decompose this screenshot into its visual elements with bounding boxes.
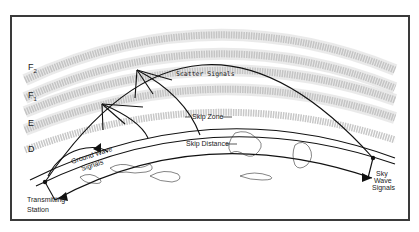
layer-label-e: E (28, 118, 34, 128)
skip-distance-label: Skip Distance (186, 140, 229, 148)
sky-wave-label-3: Signals (372, 184, 395, 192)
skip-zone-label: Skip Zone (192, 113, 224, 121)
propagation-diagram: F2 F1 E D Scatter Signals Skip Zone Skip… (0, 0, 419, 232)
transmitting-label-2: Station (27, 206, 49, 213)
transmitter-dot (43, 180, 47, 184)
layer-label-d: D (28, 144, 35, 154)
transmitting-label-1: Transmitting (27, 196, 65, 204)
sky-wave-label-2: Wave (374, 177, 392, 184)
receiver-dot (371, 156, 375, 160)
ionosphere-layers (25, 35, 395, 150)
scatter-signals-label: Scatter Signals (176, 70, 235, 78)
